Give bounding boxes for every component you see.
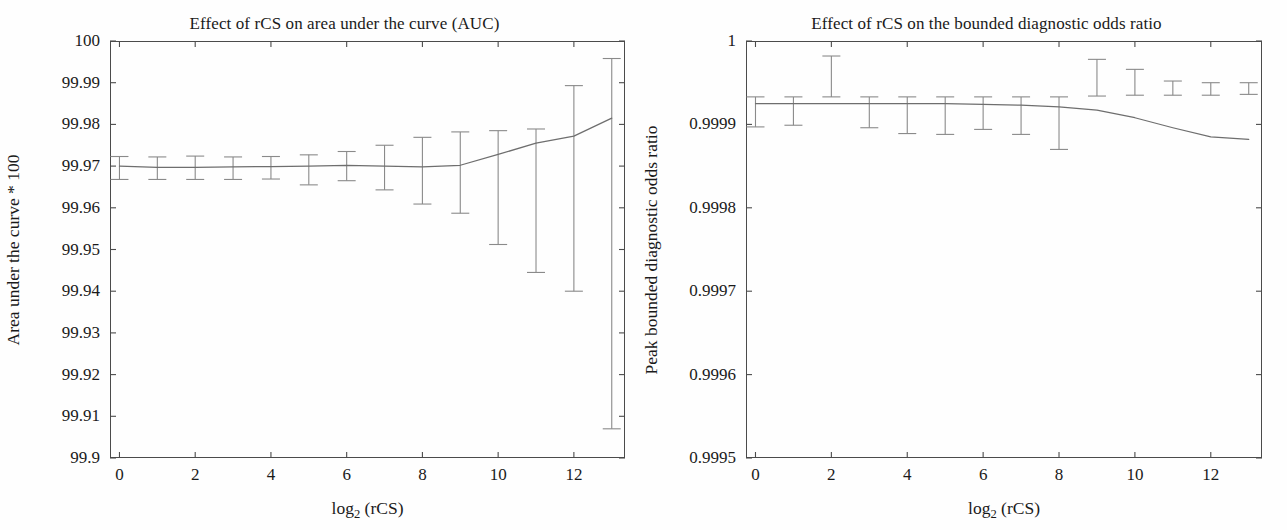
x-tick-label: 8	[1055, 465, 1064, 485]
y-tick-label: 1	[644, 31, 736, 51]
error-bars	[110, 59, 620, 429]
x-tick-label: 12	[565, 465, 582, 485]
axis-tickmarks	[110, 41, 625, 458]
y-tick-label: 99.99	[0, 73, 100, 93]
series-line	[755, 104, 1248, 140]
x-tick-label: 8	[418, 465, 427, 485]
x-tick-label: 6	[979, 465, 988, 485]
x-axis-title-base: log	[968, 498, 990, 518]
x-axis-title-rest: (rCS)	[360, 498, 403, 518]
plot-svg-bdor	[644, 0, 1287, 530]
y-tick-label: 99.91	[0, 406, 100, 426]
y-tick-label: 0.9995	[644, 448, 736, 468]
error-bars	[746, 56, 1257, 149]
x-tick-label: 2	[827, 465, 836, 485]
x-tick-label: 10	[490, 465, 507, 485]
chart-panel-bdor: Effect of rCS on the bounded diagnostic …	[644, 0, 1287, 530]
x-tick-label: 2	[191, 465, 200, 485]
x-tick-label: 4	[903, 465, 912, 485]
x-tick-label: 12	[1202, 465, 1219, 485]
y-tick-label: 99.92	[0, 365, 100, 385]
y-axis-title-bdor: Peak bounded diagnostic odds ratio	[641, 125, 662, 374]
y-tick-label: 99.9	[0, 448, 100, 468]
x-axis-title-auc: log2 (rCS)	[332, 498, 404, 522]
y-axis-title-auc: Area under the curve * 100	[3, 154, 24, 345]
y-tick-label: 99.98	[0, 114, 100, 134]
x-axis-title-bdor: log2 (rCS)	[968, 498, 1040, 522]
x-tick-label: 0	[115, 465, 124, 485]
chart-panel-auc: Effect of rCS on area under the curve (A…	[0, 0, 643, 530]
x-tick-label: 4	[267, 465, 276, 485]
x-tick-label: 0	[751, 465, 760, 485]
x-axis-title-rest: (rCS)	[997, 498, 1040, 518]
series-line	[119, 118, 611, 167]
y-tick-label: 100	[0, 31, 100, 51]
x-axis-title-base: log	[332, 498, 354, 518]
x-tick-label: 6	[342, 465, 351, 485]
x-tick-label: 10	[1126, 465, 1143, 485]
figure-container: Effect of rCS on area under the curve (A…	[0, 0, 1287, 530]
